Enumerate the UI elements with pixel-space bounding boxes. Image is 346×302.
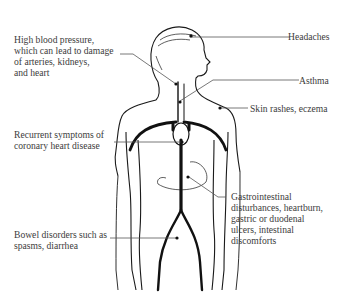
body-outline (115, 27, 240, 290)
label-high-blood-pressure: High blood pressure, which can lead to d… (14, 34, 114, 78)
label-headaches: Headaches (288, 31, 330, 42)
label-asthma: Asthma (299, 75, 329, 86)
label-gastrointestinal: Gastrointestinal disturbances, heartburn… (231, 191, 323, 246)
label-coronary-heart-disease: Recurrent symptoms of coronary heart dis… (14, 129, 104, 151)
label-skin-rashes: Skin rashes, eczema (250, 103, 328, 114)
circulatory-system (130, 82, 226, 290)
label-bowel-disorders: Bowel disorders such as spasms, diarrhea (14, 229, 107, 251)
